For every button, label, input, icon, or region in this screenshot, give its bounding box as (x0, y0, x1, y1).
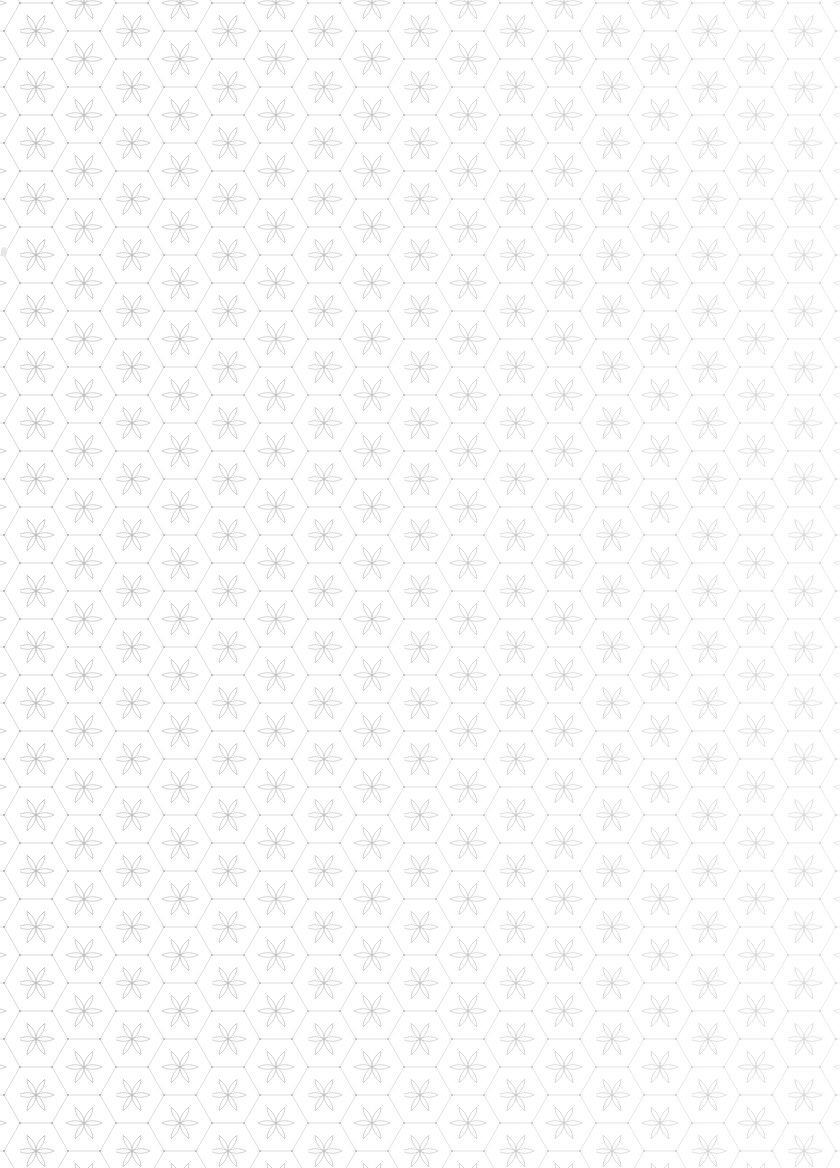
scan-mark (1, 247, 7, 257)
hexagonal-flower-pattern (0, 0, 840, 1168)
